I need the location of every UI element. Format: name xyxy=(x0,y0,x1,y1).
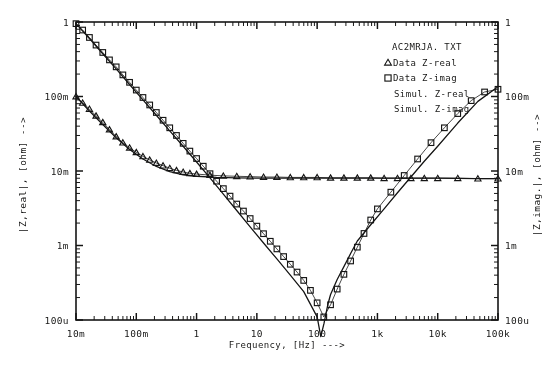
y-left-tick-label: 1 xyxy=(63,17,69,28)
y-right-axis-title: |Z,imag.|, [ohm] --> xyxy=(531,114,542,236)
x-tick-label: 1 xyxy=(194,328,200,339)
y-right-tick-label: 100u xyxy=(505,315,529,326)
legend-entry-label: Simul. Z-imag xyxy=(394,104,470,114)
x-tick-label: 100k xyxy=(486,328,510,339)
y-right-tick-label: 1m xyxy=(505,240,517,251)
figure-background xyxy=(0,0,559,373)
y-left-tick-label: 10m xyxy=(51,166,69,177)
x-tick-label: 10 xyxy=(251,328,263,339)
x-tick-label: 100m xyxy=(124,328,148,339)
y-left-tick-label: 1m xyxy=(57,240,69,251)
impedance-plot-figure: 10m100m1101001k10k100k 1100m10m1m100u 11… xyxy=(0,0,559,373)
y-right-tick-label: 100m xyxy=(505,91,529,102)
y-right-tick-label: 10m xyxy=(505,166,523,177)
x-tick-label: 10m xyxy=(67,328,85,339)
x-tick-label: 10k xyxy=(429,328,447,339)
y-left-tick-label: 100m xyxy=(45,91,69,102)
y-left-tick-label: 100u xyxy=(45,315,69,326)
x-axis-title: Frequency, [Hz] ---> xyxy=(229,340,346,350)
legend-entry-label: Data Z-real xyxy=(393,58,457,68)
x-tick-label: 1k xyxy=(371,328,383,339)
legend-filename: AC2MRJA. TXT xyxy=(392,42,462,52)
x-tick-label: 100 xyxy=(308,328,326,339)
legend-entry-label: Data Z-imag xyxy=(393,73,457,83)
y-right-tick-label: 1 xyxy=(505,17,511,28)
plot-canvas: 10m100m1101001k10k100k 1100m10m1m100u 11… xyxy=(0,0,559,373)
y-left-axis-title: |Z,real|, [ohm] --> xyxy=(17,117,28,233)
legend-entry-label: Simul. Z-real xyxy=(394,89,470,99)
